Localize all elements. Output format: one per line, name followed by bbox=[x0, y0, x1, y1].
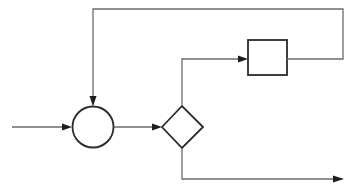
edge-decision-to-output bbox=[182, 148, 344, 183]
edge-junction-to-decision bbox=[114, 124, 162, 131]
edge-feedback-process-to-junction bbox=[90, 9, 344, 107]
arrowhead-icon bbox=[152, 124, 162, 131]
arrowhead-icon bbox=[62, 124, 72, 131]
arrowhead-icon bbox=[333, 176, 344, 183]
junction-circle bbox=[73, 107, 114, 148]
flowchart-diagram bbox=[0, 0, 355, 193]
arrowhead-icon bbox=[238, 56, 248, 63]
decision-diamond bbox=[162, 106, 203, 148]
process-box bbox=[248, 40, 287, 75]
edge-decision-to-process bbox=[182, 56, 248, 107]
edge-input-to-junction bbox=[12, 124, 72, 131]
arrowhead-icon bbox=[90, 96, 97, 107]
